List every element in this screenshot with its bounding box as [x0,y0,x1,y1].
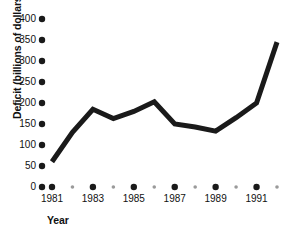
y-tick-dot [39,58,45,64]
x-tick-dot-minor [275,185,279,189]
x-tick-dot-major [253,184,259,190]
x-tick-label: 1985 [117,193,151,204]
x-tick-dot-minor [112,185,116,189]
x-tick-dot-minor [193,185,197,189]
y-tick-label: 50 [10,160,36,171]
x-axis-title-text: Year [47,214,69,226]
x-tick-dot-major [172,184,178,190]
y-tick-dot [39,142,45,148]
x-tick-dot-major [131,184,137,190]
y-tick-dot [39,100,45,106]
x-tick-label: 1991 [240,193,274,204]
y-tick-dot [39,79,45,85]
deficit-line-chart: 400350300250200150100500 198119831985198… [0,0,290,236]
x-tick-label: 1989 [199,193,233,204]
y-axis-title-text: Deficit (billions of dollars) [11,0,23,119]
x-tick-dot-major [90,184,96,190]
x-tick-dot-minor [71,185,75,189]
x-tick-dot-major [49,184,55,190]
x-tick-dot-minor [152,185,156,189]
y-tick-dot [39,163,45,169]
y-tick-dot [39,184,45,190]
x-tick-label: 1981 [35,193,69,204]
y-axis-tick-dots [39,16,45,190]
x-tick-dot-minor [234,185,238,189]
y-axis-title: Deficit (billions of dollars) [9,0,25,131]
x-tick-dot-major [212,184,218,190]
y-tick-label: 0 [10,181,36,192]
x-tick-label: 1987 [158,193,192,204]
y-tick-dot [39,37,45,43]
x-axis-tick-dots [49,184,279,190]
deficit-data-line [52,42,277,162]
x-axis-title: Year [47,210,69,228]
x-tick-label: 1983 [76,193,110,204]
y-tick-dot [39,16,45,22]
y-tick-dot [39,121,45,127]
y-tick-label: 100 [10,139,36,150]
